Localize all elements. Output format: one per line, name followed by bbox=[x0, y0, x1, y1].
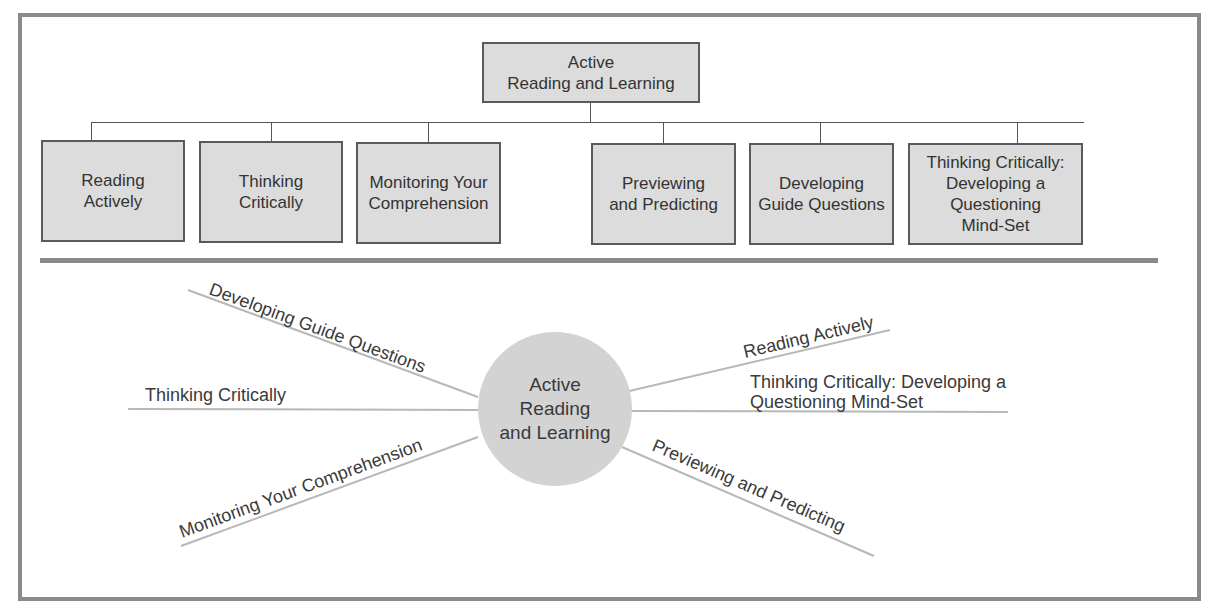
spoke-label-reading-actively: Reading Actively bbox=[741, 312, 875, 362]
spoke-map: Active Reading and Learning Developing G… bbox=[0, 0, 1205, 608]
center-label-line3: and Learning bbox=[500, 422, 611, 443]
spoke-label-questioning-mindset-line1: Thinking Critically: Developing a bbox=[750, 372, 1007, 392]
spoke-line-previewing bbox=[622, 447, 874, 556]
center-label-line2: Reading bbox=[520, 398, 591, 419]
spoke-label-previewing: Previewing and Predicting bbox=[649, 435, 848, 536]
spoke-label-guide-questions: Developing Guide Questions bbox=[207, 279, 429, 377]
spoke-line-thinking-critically bbox=[128, 409, 478, 410]
center-label-line1: Active bbox=[529, 374, 581, 395]
spoke-label-questioning-mindset-line2: Questioning Mind-Set bbox=[750, 392, 923, 412]
spoke-label-thinking-critically: Thinking Critically bbox=[145, 385, 286, 405]
spoke-line-monitoring bbox=[181, 437, 478, 546]
spoke-label-monitoring: Monitoring Your Comprehension bbox=[177, 435, 425, 542]
